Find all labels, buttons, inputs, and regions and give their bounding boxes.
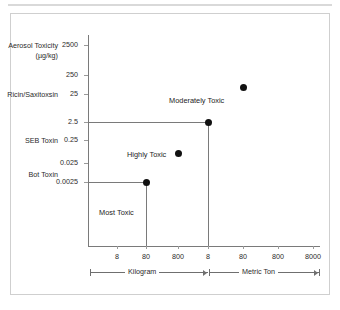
most-toxic-boundary-vertical — [146, 182, 147, 246]
unit-label-metric-ton: Metric Ton — [239, 267, 278, 277]
x-tick-label-mt-8: 8 — [193, 252, 223, 261]
data-point-seb-toxin — [205, 119, 212, 126]
region-label-most-toxic: Most Toxic — [99, 208, 134, 217]
y-tick-mark-0p025 — [84, 163, 88, 164]
x-tick-label-kg-8: 8 — [102, 252, 132, 261]
region-label-highly-toxic: Highly Toxic — [127, 150, 166, 159]
unit-label-kilogram: Kilogram — [125, 267, 159, 277]
y-tick-label-25: 25 — [70, 90, 78, 98]
x-tick-label-kg-800: 800 — [163, 252, 193, 261]
y-axis-line — [88, 35, 89, 247]
category-label-seb-toxin: SEB Toxin — [25, 136, 58, 145]
highly-toxic-boundary-horizontal — [88, 122, 208, 123]
data-point-bot-toxin — [143, 179, 150, 186]
data-point-mid — [175, 150, 182, 157]
highly-toxic-boundary-vertical — [208, 122, 209, 246]
toxicity-scatter-chart: 2500 250 25 2.5 0.25 0.025 0.0025 Aeroso… — [0, 0, 340, 310]
category-label-aerosol-units: (µg/kg) — [35, 51, 58, 60]
x-axis-unit-brackets: Kilogram Metric Ton — [0, 264, 340, 280]
metric-ton-bracket-right-arrow — [314, 270, 318, 276]
x-tick-mark-mt-8 — [208, 246, 209, 249]
most-toxic-boundary-horizontal — [88, 182, 146, 183]
x-axis-line — [88, 246, 320, 247]
y-tick-label-2p5: 2.5 — [68, 118, 78, 126]
category-label-bot-toxin: Bot Toxin — [29, 170, 58, 179]
metric-ton-bracket-right-cap — [319, 269, 320, 276]
y-tick-label-0p025: 0.025 — [60, 159, 78, 167]
y-tick-label-2500: 2500 — [62, 41, 78, 49]
y-tick-mark-0p0025 — [84, 182, 88, 183]
x-tick-label-mt-800: 800 — [263, 252, 293, 261]
category-label-aerosol-toxicity: Aerosol Toxicity — [8, 41, 58, 50]
category-label-ricin-saxitoxsin: Ricin/Saxitoxsin — [7, 90, 58, 99]
region-label-moderately-toxic: Moderately Toxic — [169, 96, 224, 105]
y-tick-mark-25 — [84, 94, 88, 95]
x-tick-mark-mt-8000 — [313, 246, 314, 249]
kilogram-bracket-right-arrow — [203, 270, 207, 276]
data-point-ricin-saxitoxsin — [240, 84, 247, 91]
y-tick-label-0p25: 0.25 — [64, 136, 78, 144]
x-tick-label-kg-80: 80 — [131, 252, 161, 261]
y-tick-label-0p0025: 0.0025 — [56, 178, 78, 186]
x-tick-mark-mt-80 — [243, 246, 244, 249]
x-tick-mark-mt-800 — [278, 246, 279, 249]
y-tick-mark-0p25 — [84, 140, 88, 141]
y-tick-label-250: 250 — [66, 71, 78, 79]
x-tick-label-mt-8000: 8000 — [298, 252, 328, 261]
y-tick-mark-2p5 — [84, 122, 88, 123]
x-tick-mark-kg-8 — [117, 246, 118, 249]
x-tick-label-mt-80: 80 — [228, 252, 258, 261]
y-tick-mark-250 — [84, 75, 88, 76]
y-tick-mark-2500 — [84, 45, 88, 46]
x-tick-mark-kg-800 — [178, 246, 179, 249]
x-tick-mark-kg-80 — [146, 246, 147, 249]
